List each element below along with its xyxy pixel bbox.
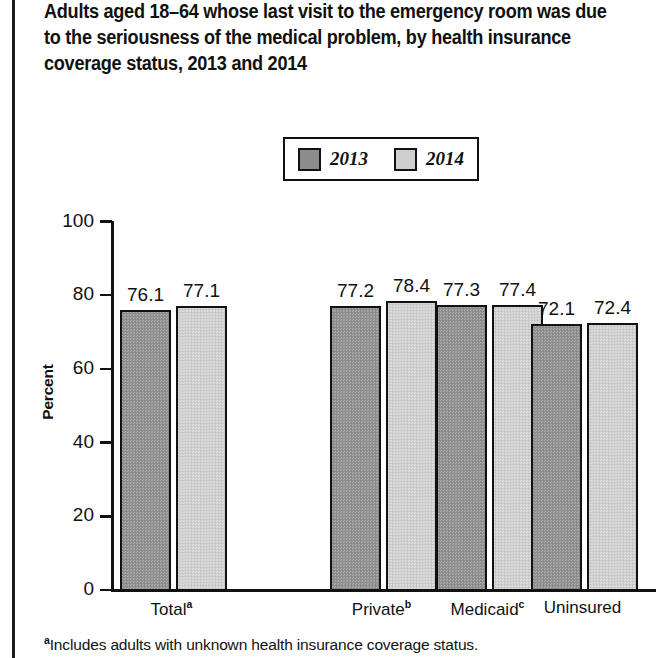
value-label-medicaid-2013: 77.3 bbox=[431, 279, 493, 301]
y-tick-100 bbox=[100, 220, 112, 223]
category-label-text: Total bbox=[151, 600, 187, 619]
footnote: aIncludes adults with unknown health ins… bbox=[44, 631, 644, 654]
y-tick-20 bbox=[100, 515, 112, 518]
bar-chart-plot: Percent 020406080100 76.177.177.278.477.… bbox=[0, 0, 666, 658]
x-category-total: Totala bbox=[97, 598, 247, 620]
bar-total-2014 bbox=[176, 306, 227, 591]
y-tick-0 bbox=[100, 589, 112, 592]
bar-total-2013 bbox=[120, 310, 171, 591]
y-tick-60 bbox=[100, 368, 112, 371]
bar-private-2013 bbox=[330, 306, 381, 591]
category-marker: b bbox=[405, 598, 411, 610]
y-tick-label-60: 60 bbox=[38, 357, 94, 379]
value-label-uninsured-2013: 72.1 bbox=[526, 298, 588, 320]
x-category-uninsured: Uninsured bbox=[508, 598, 658, 618]
bar-uninsured-2013 bbox=[531, 324, 582, 591]
y-tick-label-100: 100 bbox=[38, 210, 94, 232]
y-tick-label-80: 80 bbox=[38, 283, 94, 305]
category-label-text: Private bbox=[352, 600, 405, 619]
y-axis-line bbox=[111, 221, 114, 591]
category-label-text: Uninsured bbox=[544, 598, 622, 617]
value-label-private-2013: 77.2 bbox=[325, 280, 387, 302]
y-tick-80 bbox=[100, 294, 112, 297]
value-label-total-2013: 76.1 bbox=[115, 284, 177, 306]
y-tick-label-20: 20 bbox=[38, 504, 94, 526]
bar-medicaid-2013 bbox=[436, 305, 487, 591]
value-label-total-2014: 77.1 bbox=[171, 280, 233, 302]
footnote-text: Includes adults with unknown health insu… bbox=[50, 636, 478, 653]
value-label-uninsured-2014: 72.4 bbox=[582, 297, 644, 319]
bar-private-2014 bbox=[386, 301, 437, 591]
y-tick-label-40: 40 bbox=[38, 431, 94, 453]
y-tick-label-0: 0 bbox=[38, 578, 94, 600]
y-tick-40 bbox=[100, 441, 112, 444]
category-marker: a bbox=[187, 598, 193, 610]
bar-uninsured-2014 bbox=[587, 323, 638, 591]
